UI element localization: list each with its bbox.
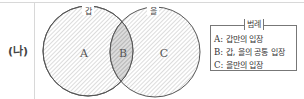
legend-key: A: (214, 34, 223, 44)
right-set-title: 을 (150, 7, 157, 16)
legend-box: 범례 A: 갑만의 입장 B: 갑, 을의 공통 입장 C: 을만의 입장 (210, 25, 297, 71)
legend-item-a: A: 갑만의 입장 (214, 33, 285, 46)
legend-desc: 갑, 을의 공통 입장 (223, 48, 285, 57)
legend-desc: 을만의 입장 (223, 61, 263, 70)
left-set-title: 갑 (85, 6, 93, 16)
region-a-label: A (79, 47, 89, 60)
legend-item-c: C: 을만의 입장 (214, 59, 285, 72)
legend-key: C: (214, 60, 223, 70)
legend-list: A: 갑만의 입장 B: 갑, 을의 공통 입장 C: 을만의 입장 (214, 33, 285, 72)
legend-title: 범례 (244, 19, 264, 30)
legend-key: B: (214, 47, 223, 57)
legend-item-b: B: 갑, 을의 공통 입장 (214, 46, 285, 59)
legend-desc: 갑만의 입장 (223, 35, 263, 44)
region-b-label: B (119, 47, 127, 60)
region-c-label: C (160, 47, 168, 60)
